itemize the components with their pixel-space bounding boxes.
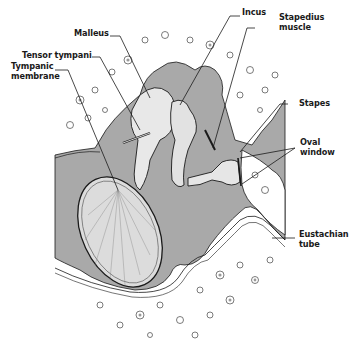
label-malleus: Malleus <box>74 29 109 39</box>
label-oval-window: Oval window <box>300 138 335 157</box>
label-tensor-tympani: Tensor tympani <box>22 51 92 61</box>
label-stapedius-muscle: Stapedius muscle <box>279 13 324 32</box>
label-stapes: Stapes <box>299 99 330 109</box>
label-eustachian-tube: Eustachian tube <box>299 230 349 249</box>
label-tympanic-membrane: Tympanic membrane <box>11 62 60 81</box>
label-incus: Incus <box>242 8 266 18</box>
